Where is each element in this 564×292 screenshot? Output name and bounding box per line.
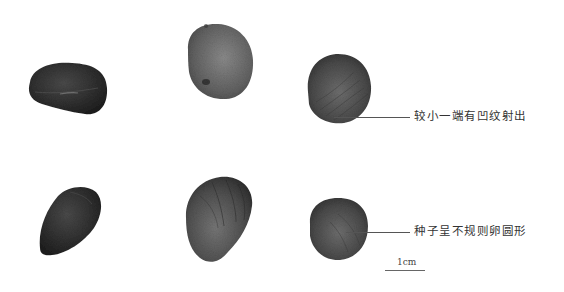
annotation-leader-line-2 — [346, 232, 410, 233]
seed-4 — [40, 187, 101, 255]
seed-1 — [29, 63, 107, 115]
annotation-label-seed-shape: 种子呈不规则卵圆形 — [414, 224, 527, 238]
seed-photographs — [0, 0, 564, 292]
seed-figure: 较小一端有凹纹射出 种子呈不规则卵圆形 1cm — [0, 0, 564, 292]
annotation-label-small-end-ridges: 较小一端有凹纹射出 — [414, 109, 527, 123]
seed-6 — [310, 198, 368, 260]
scale-bar-label: 1cm — [397, 257, 416, 267]
seed-5 — [186, 177, 252, 262]
annotation-leader-line-1 — [334, 117, 410, 118]
scale-bar — [385, 270, 425, 271]
seed-3 — [308, 54, 371, 123]
seed-2 — [188, 24, 253, 99]
